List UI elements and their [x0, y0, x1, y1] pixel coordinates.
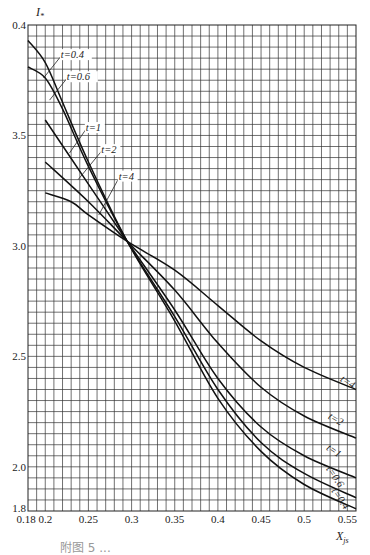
y-tick-label: 2.0 — [12, 461, 26, 473]
x-tick-labels: 0.180.20.250.30.350.40.450.50.55 — [16, 513, 357, 525]
x-tick-label: 0.45 — [251, 513, 271, 525]
curve-label: t=1 — [86, 122, 101, 133]
curve-label: t=0.4 — [61, 49, 85, 60]
x-tick-label: 0.25 — [79, 513, 99, 525]
curve-label: t=4 — [119, 171, 135, 182]
x-tick-label: 0.18 — [16, 513, 36, 525]
grid — [28, 25, 356, 511]
x-tick-label: 0.3 — [125, 513, 139, 525]
curve-label: t=2 — [327, 410, 346, 428]
y-axis-label: I* — [35, 5, 44, 21]
curve-label: t=0.6 — [67, 71, 91, 82]
x-tick-label: 0.2 — [38, 513, 52, 525]
x-tick-label: 0.55 — [338, 513, 358, 525]
x-tick-label: 0.5 — [297, 513, 311, 525]
y-tick-label: 1.8 — [12, 502, 26, 514]
figure-caption: 附图 5 ... — [60, 538, 111, 555]
y-tick-label: 0.4 — [12, 19, 26, 31]
label-leader-line — [44, 55, 62, 78]
y-tick-labels: 1.82.02.53.03.50.4 — [12, 19, 26, 514]
label-leader-line — [78, 150, 102, 180]
y-tick-label: 3.5 — [12, 129, 26, 141]
y-tick-label: 2.5 — [12, 350, 26, 362]
curve-label: t=2 — [101, 144, 117, 155]
x-axis-label: Xjs — [335, 529, 349, 545]
x-tick-label: 0.4 — [211, 513, 225, 525]
y-tick-label: 3.0 — [12, 240, 26, 252]
x-tick-label: 0.35 — [165, 513, 185, 525]
